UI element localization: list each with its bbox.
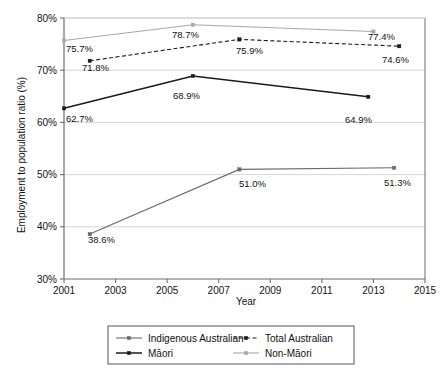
- y-tick-label: 80%: [37, 13, 57, 24]
- data-point-marker: [238, 168, 241, 171]
- legend-label-māori: Māori: [148, 348, 173, 359]
- x-axis-title: Year: [236, 296, 257, 307]
- legend: Indigenous AustralianTotal AustralianMāo…: [108, 326, 354, 364]
- data-point-label: 38.6%: [88, 234, 115, 245]
- legend-label-indigenous-australian: Indigenous Australian: [148, 333, 244, 344]
- data-point-label: 75.7%: [66, 43, 93, 54]
- data-point-label: 74.6%: [382, 54, 409, 65]
- data-point-label: 77.4%: [368, 31, 395, 42]
- legend-marker: [127, 351, 130, 354]
- data-point-label: 68.9%: [173, 90, 200, 101]
- data-point-marker: [367, 95, 370, 98]
- y-tick-label: 60%: [37, 117, 57, 128]
- x-tick-label: 2003: [104, 285, 127, 296]
- y-tick-label: 70%: [37, 65, 57, 76]
- data-point-label: 78.7%: [172, 29, 199, 40]
- x-tick-label: 2013: [362, 285, 385, 296]
- x-tick-label: 2011: [311, 285, 333, 296]
- legend-marker: [127, 336, 130, 339]
- data-point-marker: [191, 74, 194, 77]
- x-tick-label: 2005: [156, 285, 179, 296]
- data-point-label: 62.7%: [66, 113, 93, 124]
- y-tick-label: 50%: [37, 169, 57, 180]
- data-point-marker: [62, 107, 65, 110]
- x-tick-label: 2007: [208, 285, 231, 296]
- data-point-label: 75.9%: [236, 45, 263, 56]
- y-tick-label: 40%: [37, 221, 57, 232]
- y-tick-label: 30%: [37, 274, 57, 285]
- x-tick-label: 2009: [259, 285, 282, 296]
- chart-background: [0, 0, 444, 371]
- chart-canvas: 30%40%50%60%70%80% 200120032005200720092…: [0, 0, 444, 371]
- legend-marker: [244, 351, 247, 354]
- data-point-label: 64.9%: [345, 114, 372, 125]
- legend-label-total-australian: Total Australian: [265, 333, 333, 344]
- data-point-marker: [392, 166, 395, 169]
- data-point-marker: [398, 44, 401, 47]
- data-point-label: 51.3%: [384, 177, 411, 188]
- data-point-marker: [191, 23, 194, 26]
- line-chart: 30%40%50%60%70%80% 200120032005200720092…: [0, 0, 444, 371]
- legend-marker: [244, 336, 247, 339]
- data-point-label: 51.0%: [239, 178, 266, 189]
- x-tick-label: 2015: [414, 285, 437, 296]
- y-axis-title: Employment to population ratio (%): [16, 77, 27, 233]
- data-point-marker: [238, 38, 241, 41]
- data-point-marker: [62, 39, 65, 42]
- data-point-label: 71.8%: [82, 62, 109, 73]
- legend-label-non-māori: Non-Māori: [265, 348, 312, 359]
- x-tick-label: 2001: [53, 285, 76, 296]
